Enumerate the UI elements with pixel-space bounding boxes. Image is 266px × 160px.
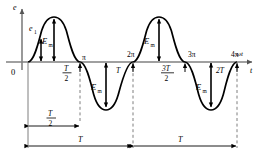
- e1-label: e 1: [29, 24, 37, 35]
- origin-label: 0: [11, 67, 15, 77]
- time-tick-3T-over-2: 3T 2: [161, 64, 174, 83]
- em-label-peak2-base: E: [143, 36, 150, 46]
- em-label-peak1-base: E: [41, 36, 48, 46]
- em-label-peak2: E m: [143, 36, 156, 48]
- time-tick-3T-over-2-den: 2: [165, 74, 169, 83]
- em-label-trough2-base: E: [195, 82, 202, 92]
- e1-label-base: e: [29, 24, 33, 33]
- half-period-den: 2: [49, 119, 53, 128]
- time-tick-T: T: [116, 66, 121, 75]
- y-axis-label: e: [13, 3, 17, 12]
- time-tick-T-over-2-den: 2: [65, 74, 69, 83]
- tick-label-2pi: 2π: [127, 50, 135, 59]
- waveform-figure: e ωt t 0 π 2π 3π 4π T 2 T 3T 2 2T e 1 E: [0, 0, 266, 160]
- period-dimension-2-label: T: [178, 135, 183, 144]
- tick-label-4pi: 4π: [231, 50, 239, 59]
- tick-label-pi: π: [82, 53, 86, 62]
- period-dimension-1-label: T: [78, 135, 83, 144]
- time-tick-T-over-2: T 2: [63, 64, 72, 83]
- time-tick-3T-over-2-num: 3T: [161, 64, 171, 73]
- time-tick-2T: 2T: [216, 66, 225, 75]
- em-label-trough1-sub: m: [98, 88, 103, 94]
- em-label-peak1: E m: [41, 36, 54, 48]
- half-period-num: T: [48, 109, 53, 118]
- em-label-peak1-sub: m: [49, 42, 54, 48]
- waveform-svg: e ωt t 0 π 2π 3π 4π T 2 T 3T 2 2T e 1 E: [0, 0, 266, 160]
- em-label-trough1-base: E: [90, 82, 97, 92]
- em-label-trough2-sub: m: [203, 88, 208, 94]
- em-label-peak2-sub: m: [151, 42, 156, 48]
- tick-label-3pi: 3π: [188, 50, 196, 59]
- time-tick-T-over-2-num: T: [64, 64, 69, 73]
- e1-label-sub: 1: [34, 29, 37, 35]
- half-period-dimension-label: T 2: [47, 109, 57, 128]
- em-label-trough1: E m: [90, 82, 103, 94]
- x-axis-label-t: t: [250, 66, 253, 75]
- em-label-trough2: E m: [195, 82, 208, 94]
